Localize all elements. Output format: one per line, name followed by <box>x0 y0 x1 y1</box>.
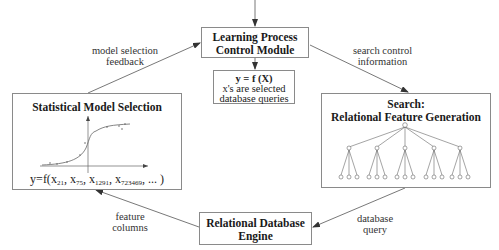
module-title-line1: Learning Process <box>202 31 308 44</box>
formula-suffix: , ... ) <box>142 172 164 186</box>
statistical-model-selection-box: Statistical Model Selection y=f(x21, x75… <box>12 93 182 190</box>
search-control-label-line2: information <box>345 56 420 67</box>
database-title-line1: Relational Database <box>200 217 311 230</box>
feedback-label: model selection feedback <box>85 45 165 67</box>
term-sub: 21 <box>57 179 64 187</box>
feature-columns-label: feature columns <box>105 211 155 233</box>
search-feature-generation-box: Search: Relational Feature Generation <box>321 93 491 188</box>
feedback-label-line1: model selection <box>85 45 165 56</box>
formula-prefix: y=f( <box>30 172 51 186</box>
feedback-label-line2: feedback <box>85 56 165 67</box>
term-sub: 1291 <box>95 179 109 187</box>
database-query-label: database query <box>350 213 400 235</box>
relational-database-engine-box: Relational Database Engine <box>199 212 312 245</box>
search-control-label: search control information <box>345 45 420 67</box>
feature-columns-label-line1: feature <box>105 211 155 222</box>
database-query-label-line1: database <box>350 213 400 224</box>
search-control-label-line1: search control <box>345 45 420 56</box>
term-sub: 723469 <box>121 179 142 187</box>
function-desc-line2: database queries <box>214 93 294 104</box>
learning-process-control-module: Learning Process Control Module <box>201 27 309 58</box>
feature-columns-label-line2: columns <box>105 222 155 233</box>
database-query-label-line2: query <box>350 224 400 235</box>
search-tree <box>321 93 491 188</box>
module-title-line2: Control Module <box>202 44 308 57</box>
function-box: y = f (X) x's are selected database quer… <box>213 70 295 104</box>
model-formula: y=f(x21, x75, x1291, x723469, ... ) <box>13 172 181 187</box>
database-title-line2: Engine <box>200 230 311 243</box>
term-sub: 75 <box>76 179 83 187</box>
